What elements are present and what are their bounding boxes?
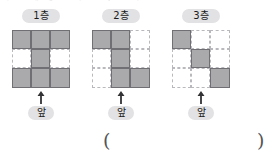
arrow-up-icon [197, 91, 206, 104]
figures-row: 1층 앞 2층 앞 3층 앞 [0, 9, 271, 124]
front-label-2: 앞 [108, 106, 134, 120]
grid-cell-filled [111, 68, 130, 87]
answer-input[interactable] [112, 131, 254, 151]
grid-cell-empty [191, 68, 210, 87]
cropped-text-remnant: ᅡ ᅳ ᅢ ᅦ ᅩ ᅧ ᅵ ᅥ ᅳ ᅡ [0, 0, 271, 7]
grid-floor-1 [12, 30, 70, 88]
grid-cell-filled [31, 68, 50, 87]
arrow-up-icon [117, 91, 126, 104]
answer-open-paren: ( [103, 128, 110, 152]
grid-cell-filled [12, 68, 31, 87]
floor-label-2: 2층 [102, 9, 140, 23]
grid-cell-empty [130, 30, 149, 49]
grid-cell-empty [130, 49, 149, 68]
grid-cell-empty [50, 49, 69, 68]
answer-blank[interactable]: ( ) [0, 128, 271, 158]
grid-floor-3 [172, 30, 230, 88]
front-label-3: 앞 [188, 106, 214, 120]
grid-cell-filled [210, 68, 229, 87]
grid-cell-empty [172, 49, 191, 68]
grid-cell-filled [92, 30, 111, 49]
floor-label-1: 1층 [22, 9, 60, 23]
grid-cell-filled [31, 30, 50, 49]
grid-cell-empty [12, 49, 31, 68]
grid-cell-filled [111, 30, 130, 49]
figure-floor-2: 2층 앞 [80, 9, 162, 124]
figure-floor-3: 3층 앞 [160, 9, 242, 124]
grid-cell-empty [210, 49, 229, 68]
grid-cell-empty [191, 30, 210, 49]
grid-cell-filled [12, 30, 31, 49]
grid-cell-empty [172, 68, 191, 87]
grid-cell-filled [31, 49, 50, 68]
cropped-text-fragment: ᅡ ᅳ ᅢ ᅦ ᅩ ᅧ ᅵ ᅥ ᅳ ᅡ [0, 0, 141, 7]
grid-cell-empty [92, 49, 111, 68]
front-label-1: 앞 [28, 106, 54, 120]
grid-cell-filled [191, 49, 210, 68]
answer-close-paren: ) [257, 128, 264, 152]
grid-cell-filled [172, 30, 191, 49]
grid-cell-empty [210, 30, 229, 49]
arrow-up-icon [37, 91, 46, 104]
grid-cell-filled [111, 49, 130, 68]
grid-cell-filled [130, 68, 149, 87]
grid-floor-2 [92, 30, 150, 88]
grid-cell-filled [50, 30, 69, 49]
figure-floor-1: 1층 앞 [0, 9, 82, 124]
grid-cell-filled [50, 68, 69, 87]
floor-label-3: 3층 [182, 9, 220, 23]
grid-cell-empty [92, 68, 111, 87]
